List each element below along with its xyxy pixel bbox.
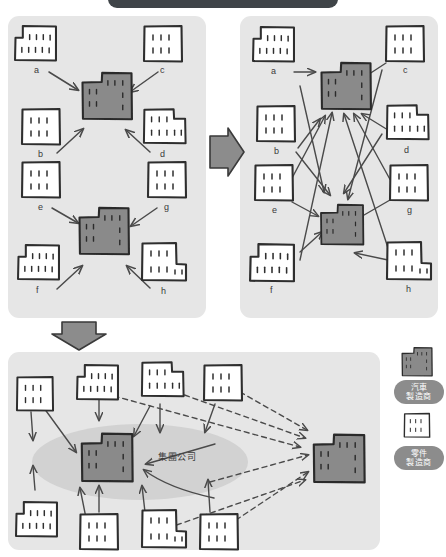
flow-arrow-down	[52, 322, 106, 350]
supplier-c-top-right	[386, 26, 424, 62]
figure-canvas: a b c d e f g h a b c d e f g h 集團公司 汽車 …	[0, 0, 446, 557]
legend-car-maker-line1: 汽車	[411, 383, 428, 393]
supplier-bottom-1	[17, 377, 53, 411]
supplier-bottom-4	[204, 365, 242, 401]
supplier-e-top-left	[22, 162, 60, 198]
legend-parts-maker-line2: 製造商	[406, 458, 432, 468]
legend-pill-parts-maker: 零件 製造商	[394, 446, 444, 470]
label-supplier-c-top-left: c	[160, 66, 165, 75]
label-supplier-g-top-left: g	[164, 203, 169, 212]
label-supplier-f-top-right: f	[270, 286, 273, 295]
supplier-c-top-left	[144, 26, 182, 62]
label-supplier-d-top-right: d	[404, 146, 409, 155]
supplier-bottom-6	[80, 514, 118, 550]
label-supplier-c-top-right: c	[403, 66, 408, 75]
label-supplier-f-top-left: f	[36, 286, 39, 295]
diagram-svg	[0, 0, 446, 557]
group-company-label: 集團公司	[158, 452, 196, 462]
label-supplier-e-top-right: e	[272, 206, 277, 215]
flow-arrow-right	[210, 128, 244, 176]
label-supplier-b-top-right: b	[274, 147, 279, 156]
supplier-g-top-right	[390, 165, 428, 201]
supplier-b-top-right	[257, 106, 295, 142]
legend: 汽車 製造商 零件 製造商	[392, 344, 446, 484]
label-supplier-h-top-right: h	[406, 285, 411, 294]
label-supplier-h-top-left: h	[161, 287, 166, 296]
legend-pill-car-maker: 汽車 製造商	[394, 380, 444, 404]
label-supplier-d-top-left: d	[160, 150, 165, 159]
label-supplier-b-top-left: b	[38, 150, 43, 159]
legend-parts-maker-line1: 零件	[411, 449, 428, 459]
label-supplier-e-top-left: e	[38, 203, 43, 212]
label-supplier-a-top-right: a	[271, 67, 276, 76]
label-supplier-a-top-left: a	[34, 66, 39, 75]
supplier-b-top-left	[22, 109, 60, 145]
supplier-e-top-right	[255, 165, 293, 201]
label-supplier-g-top-right: g	[407, 206, 412, 215]
supplier-bottom-8	[200, 514, 238, 550]
legend-car-maker-line2: 製造商	[406, 392, 432, 402]
supplier-g-top-left	[148, 162, 186, 198]
